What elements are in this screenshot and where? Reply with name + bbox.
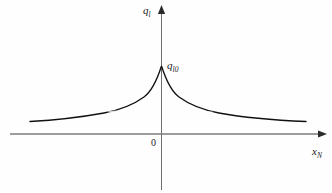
y-axis-arrow-icon bbox=[158, 5, 165, 14]
x-axis-arrow-icon bbox=[318, 130, 327, 137]
curve-artifact-left bbox=[108, 111, 116, 112]
x-axis-label: xN bbox=[312, 146, 322, 160]
plot-canvas bbox=[0, 0, 332, 193]
peak-value-label: ql0 bbox=[167, 60, 179, 74]
origin-tick-label: 0 bbox=[151, 138, 156, 148]
x-axis-label-subscript: N bbox=[317, 151, 322, 160]
curve-left-branch bbox=[30, 67, 161, 122]
peak-value-subscript: l0 bbox=[173, 65, 179, 74]
curve-right-branch bbox=[162, 67, 306, 122]
y-axis-label: ql bbox=[143, 5, 151, 19]
figure-container: ql xN ql0 0 bbox=[0, 0, 332, 193]
y-axis-label-subscript: l bbox=[149, 10, 151, 19]
